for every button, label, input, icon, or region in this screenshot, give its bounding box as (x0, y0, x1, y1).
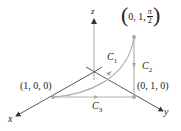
point-label-top: ( 0, 1, π 2 ) (121, 7, 160, 26)
point-label-1-0-0: (1, 0, 0) (20, 81, 52, 91)
point-top (132, 35, 136, 39)
y-axis-label: y (164, 107, 168, 117)
curve-label-c2: C2 (142, 61, 152, 74)
z-axis-label: z (91, 7, 95, 16)
x-axis (16, 72, 94, 116)
point-0-1-0 (132, 95, 136, 99)
point-1-0-0 (51, 95, 55, 99)
point-label-0-1-0: (0, 1, 0) (137, 81, 169, 91)
curve-label-c3: C3 (92, 101, 102, 114)
x-axis-label: x (8, 114, 12, 124)
curve-label-c1: C1 (107, 52, 117, 65)
